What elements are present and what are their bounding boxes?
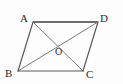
geometry-figure: A D B C O — [0, 0, 123, 84]
vertex-label-a: A — [20, 13, 28, 24]
vertex-label-d: D — [100, 13, 108, 24]
vertex-label-c: C — [86, 69, 93, 80]
vertex-label-o: O — [55, 47, 62, 57]
vertex-label-b: B — [5, 68, 12, 79]
